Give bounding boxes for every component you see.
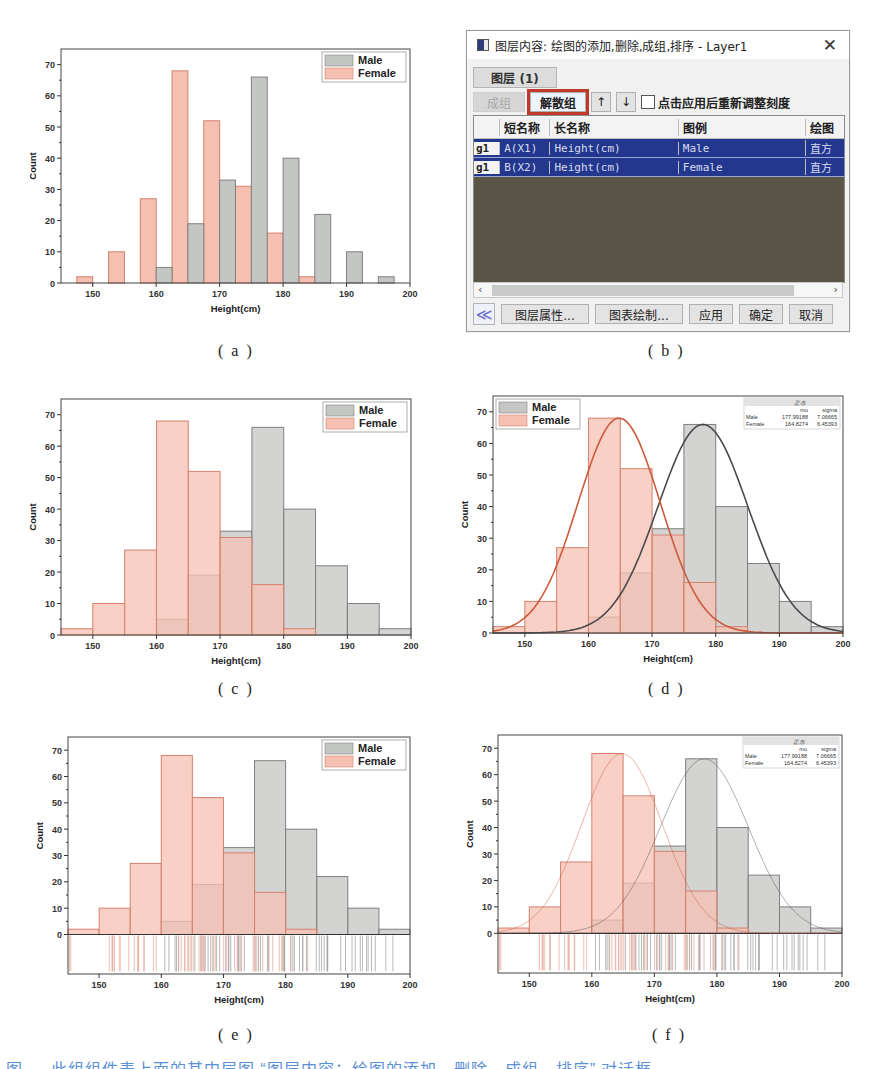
arrow-down-icon: ↓ — [621, 95, 631, 109]
histogram-bar-female — [686, 891, 717, 933]
arrow-up-icon: ↑ — [596, 95, 606, 109]
window-icon — [477, 39, 489, 51]
cell-long-name: Height(cm) — [549, 161, 677, 174]
caption-a: ( a ) — [218, 342, 254, 360]
header-long-name[interactable]: 长名称 — [549, 119, 677, 136]
histogram-bar-female — [623, 796, 654, 934]
svg-text:180: 180 — [709, 979, 724, 989]
ok-button[interactable]: 确定 — [739, 304, 783, 324]
dialog-title-bar[interactable]: 图层内容: 绘图的添加,删除,成组,排序 - Layer1 ✕ — [467, 31, 849, 59]
fit-stats-table: 正态musigmaMale177.991887.06665Female164.8… — [743, 737, 839, 768]
svg-text:164.8274: 164.8274 — [784, 760, 807, 766]
histogram-bar-female — [654, 851, 685, 933]
y-axis-label: Count — [464, 820, 475, 848]
layer-contents-dialog: 图层内容: 绘图的添加,删除,成组,排序 - Layer1 ✕ 图层 (1) 成… — [466, 30, 850, 332]
histogram-bar-female — [529, 907, 560, 933]
caption-d: ( d ) — [648, 680, 685, 698]
dialog-title: 图层内容: 绘图的添加,删除,成组,排序 - Layer1 — [495, 37, 747, 54]
svg-text:170: 170 — [647, 979, 662, 989]
move-down-button[interactable]: ↓ — [616, 92, 636, 112]
svg-text:60: 60 — [482, 770, 492, 780]
cell-group: g1 — [474, 142, 499, 155]
ungroup-button[interactable]: 解散组 — [530, 92, 586, 112]
svg-text:200: 200 — [834, 979, 849, 989]
cancel-button[interactable]: 取消 — [789, 304, 833, 324]
move-up-button[interactable]: ↑ — [591, 92, 611, 112]
dialog-toolbar: 成组 解散组 ↑ ↓ 点击应用后重新调整刻度 — [473, 91, 790, 113]
svg-text:50: 50 — [482, 797, 492, 807]
header-plot[interactable]: 绘图 — [805, 119, 844, 136]
dialog-button-row: ≪ 图层属性... 图表绘制... 应用 确定 取消 — [473, 303, 833, 325]
svg-text:正态: 正态 — [793, 739, 806, 745]
rescale-checkbox[interactable] — [641, 95, 655, 109]
cell-legend: Female — [678, 161, 805, 174]
cell-long-name: Height(cm) — [549, 142, 677, 155]
cell-legend: Male — [678, 142, 805, 155]
caption-f: ( f ) — [652, 1026, 686, 1044]
rescale-checkbox-row[interactable]: 点击应用后重新调整刻度 — [641, 94, 790, 111]
caption-e: ( e ) — [218, 1026, 254, 1044]
svg-text:Male: Male — [745, 753, 757, 759]
histogram-bar-female — [561, 862, 592, 933]
close-icon[interactable]: ✕ — [823, 35, 837, 55]
scroll-left-icon[interactable]: ‹ — [478, 283, 482, 296]
cell-short-name: B(X2) — [499, 161, 549, 174]
svg-text:0: 0 — [487, 929, 492, 939]
svg-text:20: 20 — [482, 876, 492, 886]
svg-text:40: 40 — [482, 823, 492, 833]
apply-button[interactable]: 应用 — [689, 304, 733, 324]
svg-text:190: 190 — [772, 979, 787, 989]
scrollbar-thumb[interactable] — [492, 285, 794, 296]
svg-text:sigma: sigma — [821, 746, 837, 752]
caption-b: ( b ) — [648, 342, 685, 360]
svg-text:7.06665: 7.06665 — [816, 753, 836, 759]
table-header: 短名称 长名称 图例 绘图 — [474, 116, 844, 139]
caption-c: ( c ) — [218, 680, 254, 698]
header-short-name[interactable]: 短名称 — [499, 119, 549, 136]
svg-text:30: 30 — [482, 850, 492, 860]
rescale-checkbox-label: 点击应用后重新调整刻度 — [658, 94, 790, 111]
collapse-icon[interactable]: ≪ — [473, 303, 495, 325]
plot-setup-button[interactable]: 图表绘制... — [595, 304, 683, 324]
cell-plot: 直方 — [805, 159, 844, 175]
histogram-bar-male — [811, 928, 842, 933]
layer-properties-button[interactable]: 图层属性... — [501, 304, 589, 324]
tab-layer[interactable]: 图层 (1) — [473, 67, 557, 88]
svg-text:10: 10 — [482, 902, 492, 912]
table-row[interactable]: g1 A(X1) Height(cm) Male 直方 — [474, 139, 844, 158]
histogram-bar-male — [779, 907, 810, 933]
header-legend[interactable]: 图例 — [678, 119, 805, 136]
x-axis-label: Height(cm) — [645, 993, 695, 1004]
svg-text:150: 150 — [522, 979, 537, 989]
cell-short-name: A(X1) — [499, 142, 549, 155]
svg-text:Female: Female — [745, 760, 763, 766]
histogram-bar-male — [717, 828, 748, 934]
svg-text:70: 70 — [482, 744, 492, 754]
cell-plot: 直方 — [805, 140, 844, 156]
plot-list-table: 短名称 长名称 图例 绘图 g1 A(X1) Height(cm) Male 直… — [473, 115, 845, 283]
figure-caption-clipped: 图 … 此组组件表上面的其中层图 “图层内容：绘图的添加，删除，成组，排序” 对… — [0, 1060, 872, 1069]
horizontal-scrollbar[interactable]: ‹ › — [473, 282, 843, 298]
svg-text:6.45393: 6.45393 — [816, 760, 836, 766]
svg-text:160: 160 — [584, 979, 599, 989]
group-button[interactable]: 成组 — [473, 92, 525, 112]
cell-group: g1 — [474, 161, 499, 174]
table-row[interactable]: g1 B(X2) Height(cm) Female 直方 — [474, 158, 844, 177]
svg-text:mu: mu — [799, 746, 807, 752]
svg-text:177.99188: 177.99188 — [781, 753, 807, 759]
scroll-right-icon[interactable]: › — [834, 283, 838, 296]
